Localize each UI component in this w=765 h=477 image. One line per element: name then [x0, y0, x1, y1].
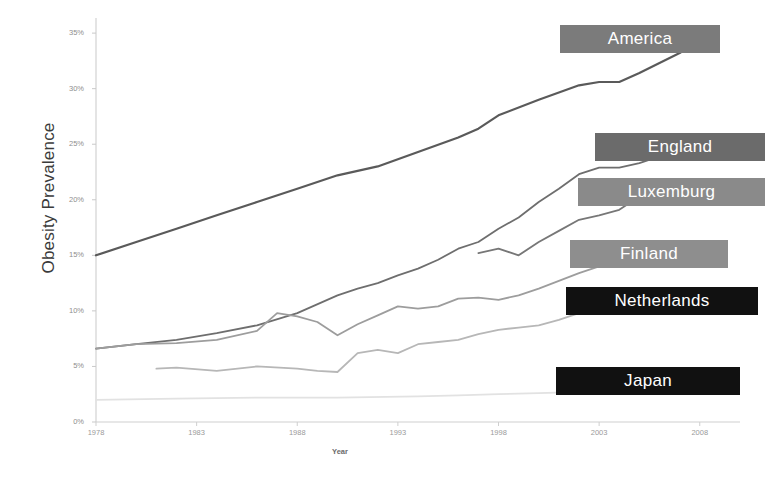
series-label-america: America	[560, 25, 720, 53]
axis-group	[96, 18, 740, 422]
series-line-group	[96, 41, 700, 400]
x-tick-label: 1998	[469, 428, 529, 437]
x-tick-label: 1978	[66, 428, 126, 437]
y-tick-label: 0%	[44, 417, 84, 426]
y-tick-label: 25%	[44, 139, 84, 148]
y-tick-label: 15%	[44, 250, 84, 259]
y-tick-label: 35%	[44, 28, 84, 37]
series-label-finland: Finland	[570, 240, 728, 268]
x-tick-label: 2003	[569, 428, 629, 437]
y-tick-label: 5%	[44, 361, 84, 370]
series-label-netherlands: Netherlands	[566, 287, 758, 315]
y-tick-label: 30%	[44, 84, 84, 93]
x-axis-title: Year	[280, 447, 400, 456]
x-tick-label: 1983	[167, 428, 227, 437]
series-label-luxemburg: Luxemburg	[578, 178, 765, 206]
obesity-prevalence-chart: Obesity Prevalence Year 0%5%10%15%20%25%…	[0, 0, 765, 477]
series-label-england: England	[595, 133, 765, 161]
x-tick-label: 1993	[368, 428, 428, 437]
x-tick-label: 2008	[670, 428, 730, 437]
series-label-japan: Japan	[556, 367, 740, 395]
y-tick-label: 20%	[44, 195, 84, 204]
chart-plot-area	[0, 0, 765, 477]
x-tick-label: 1988	[267, 428, 327, 437]
y-tick-label: 10%	[44, 306, 84, 315]
